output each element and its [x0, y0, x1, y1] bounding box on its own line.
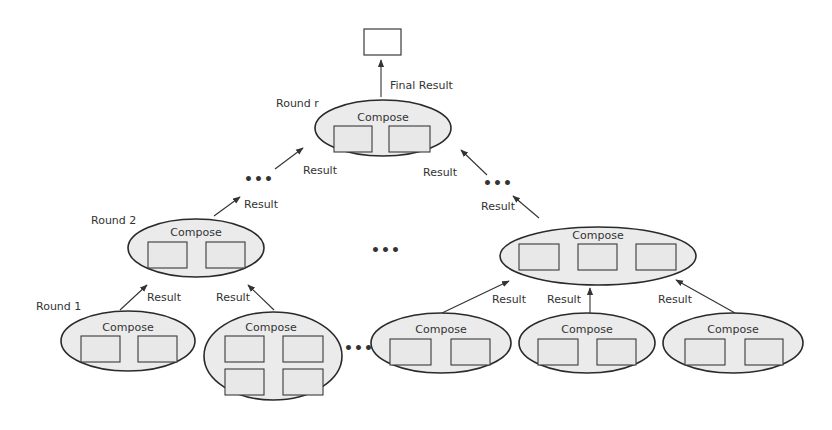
final-result-box: [364, 29, 401, 55]
compose-node-round-2-left: Compose: [128, 219, 264, 277]
compose-label: Compose: [707, 323, 759, 336]
arrow-result: [461, 150, 487, 175]
round-2-label: Round 2: [91, 214, 136, 227]
arrow-result: [513, 196, 539, 218]
ellipsis-dots-left: •••: [244, 171, 274, 187]
compose-label: Compose: [170, 226, 222, 239]
arrow-result: [120, 285, 147, 310]
result-label: Result: [244, 198, 279, 211]
compose-node-round-1-a: Compose: [61, 311, 195, 371]
composition-tree-diagram: Final Result Round r Round 2 Round 1 Com…: [0, 0, 832, 430]
result-label: Result: [481, 200, 516, 213]
arrow-result: [275, 148, 303, 169]
ellipsis-dots-bottom: •••: [344, 340, 374, 356]
round-1-label: Round 1: [36, 300, 81, 313]
result-label: Result: [547, 293, 582, 306]
result-label: Result: [658, 293, 693, 306]
arrow-result: [214, 197, 240, 216]
compose-label: Compose: [102, 321, 154, 334]
compose-node-round-2-right: Compose: [500, 227, 696, 285]
compose-label: Compose: [572, 229, 624, 242]
result-label: Result: [216, 291, 251, 304]
arrow-result: [248, 285, 274, 310]
compose-node-round-r: Compose: [315, 100, 451, 156]
final-result-label: Final Result: [390, 79, 454, 92]
result-label: Result: [492, 293, 527, 306]
round-r-label: Round r: [276, 97, 319, 110]
ellipsis-dots-right: •••: [483, 175, 513, 191]
result-label: Result: [147, 291, 182, 304]
ellipsis-dots-middle: •••: [371, 242, 401, 258]
result-label: Result: [303, 164, 338, 177]
compose-label: Compose: [245, 321, 297, 334]
compose-node-round-1-e: Compose: [663, 313, 803, 373]
result-label: Result: [423, 166, 458, 179]
compose-label: Compose: [357, 111, 409, 124]
compose-node-round-1-d: Compose: [519, 313, 655, 373]
compose-label: Compose: [415, 323, 467, 336]
compose-label: Compose: [561, 323, 613, 336]
compose-node-round-1-b: Compose: [204, 312, 342, 400]
compose-node-round-1-c: Compose: [371, 313, 511, 373]
